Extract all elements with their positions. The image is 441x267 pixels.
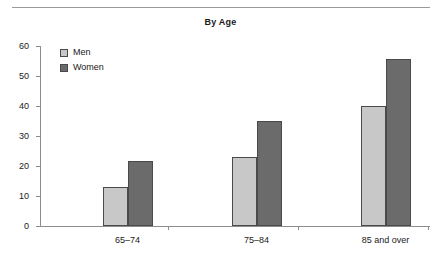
y-tick: 40 — [36, 106, 40, 107]
x-axis-line — [40, 226, 430, 227]
bar-men-1 — [232, 157, 257, 226]
y-tick-label: 40 — [19, 102, 29, 111]
y-tick: 0 — [36, 226, 40, 227]
bar-men-2 — [361, 106, 386, 226]
x-axis-label: 85 and over — [362, 236, 410, 245]
legend: Men Women — [60, 48, 104, 78]
y-tick: 10 — [36, 196, 40, 197]
x-tick — [298, 226, 299, 230]
x-axis-label: 75–84 — [244, 236, 269, 245]
bar-women-0 — [128, 161, 153, 226]
y-tick-label: 30 — [19, 132, 29, 141]
legend-swatch-men-icon — [60, 49, 68, 57]
y-tick: 50 — [36, 76, 40, 77]
bar-women-2 — [386, 59, 411, 226]
bar-women-1 — [257, 121, 282, 226]
y-tick: 20 — [36, 166, 40, 167]
legend-item-men: Men — [60, 48, 104, 57]
legend-label-women: Women — [73, 63, 104, 72]
bar-men-0 — [103, 187, 128, 226]
legend-label-men: Men — [73, 48, 91, 57]
legend-swatch-women-icon — [60, 64, 68, 72]
x-tick — [428, 226, 429, 230]
y-tick-label: 60 — [19, 42, 29, 51]
y-tick-label: 0 — [24, 222, 29, 231]
chart-title: By Age — [0, 17, 441, 27]
y-axis-line — [40, 46, 41, 226]
y-tick-label: 10 — [19, 192, 29, 201]
y-tick: 30 — [36, 136, 40, 137]
y-tick-label: 20 — [19, 162, 29, 171]
y-tick: 60 — [36, 46, 40, 47]
legend-item-women: Women — [60, 63, 104, 72]
y-tick-label: 50 — [19, 72, 29, 81]
x-axis-label: 65–74 — [115, 236, 140, 245]
chart-page: By Age 0102030405060 65–7475–8485 and ov… — [0, 0, 441, 267]
top-divider — [12, 7, 430, 8]
x-tick — [168, 226, 169, 230]
